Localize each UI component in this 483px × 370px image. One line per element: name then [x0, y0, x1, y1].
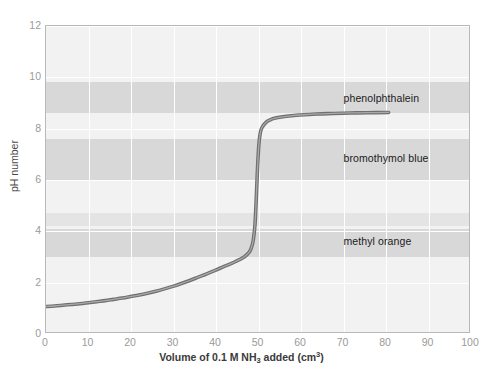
y-tick-label: 12 — [15, 20, 41, 30]
x-tick-label: 80 — [368, 336, 402, 348]
x-tick-label: 20 — [113, 336, 147, 348]
x-tick-label: 70 — [326, 336, 360, 348]
x-tick-label: 90 — [411, 336, 445, 348]
curve-outline — [46, 112, 389, 306]
x-tick-label: 100 — [453, 336, 483, 348]
y-tick-label: 10 — [15, 71, 41, 81]
x-axis-label-post: ) — [320, 351, 324, 363]
y-axis-label: pH number — [8, 126, 20, 206]
x-axis-label-mid: added (cm — [261, 351, 316, 363]
y-tick-label: 2 — [15, 277, 41, 287]
titration-chart-figure: 024681012 pH number phenolphthaleinbromo… — [0, 0, 483, 370]
band-label-methyl-orange: methyl orange — [344, 235, 412, 247]
band-label-phenolphthalein: phenolphthalein — [344, 92, 420, 104]
plot-area: phenolphthaleinbromothymol bluemethyl or… — [45, 25, 470, 333]
x-tick-label: 60 — [283, 336, 317, 348]
titration-curve — [46, 26, 469, 332]
x-tick-label: 0 — [28, 336, 62, 348]
band-label-bromothymol-blue: bromothymol blue — [344, 152, 429, 164]
y-tick-label: 4 — [15, 225, 41, 235]
x-axis-label-pre: Volume of 0.1 M NH — [159, 351, 256, 363]
curve-highlight — [46, 112, 389, 306]
x-tick-label: 30 — [156, 336, 190, 348]
x-tick-label: 10 — [71, 336, 105, 348]
x-axis-label: Volume of 0.1 M NH3 added (cm3) — [0, 350, 483, 365]
x-tick-label: 50 — [241, 336, 275, 348]
x-tick-label: 40 — [198, 336, 232, 348]
